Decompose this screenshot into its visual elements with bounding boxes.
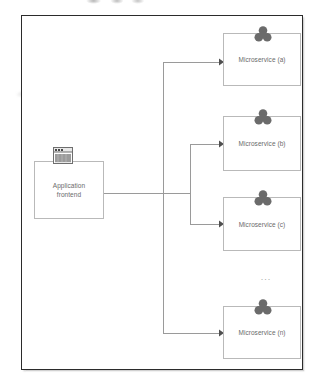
service-cluster-icon [252, 25, 274, 44]
service-cluster-icon [252, 298, 274, 317]
browser-window-icon [53, 147, 73, 164]
continuation-ellipsis: ... [253, 273, 279, 282]
node-label-microservice-n: Microservice (n) [238, 328, 285, 337]
service-cluster-icon [252, 189, 274, 208]
node-label-microservice-a: Microservice (a) [238, 55, 285, 64]
diagram-frame: Application frontend Microservice (a) [21, 15, 303, 370]
scan-artifact-top-text [78, 0, 208, 4]
node-label-microservice-c: Microservice (c) [239, 220, 286, 229]
node-application-frontend[interactable]: Application frontend [34, 161, 104, 219]
node-label-microservice-b: Microservice (b) [238, 139, 285, 148]
service-cluster-icon [252, 108, 274, 127]
node-label-application-frontend: Application frontend [53, 181, 85, 199]
diagram-canvas: Application frontend Microservice (a) [0, 0, 323, 385]
